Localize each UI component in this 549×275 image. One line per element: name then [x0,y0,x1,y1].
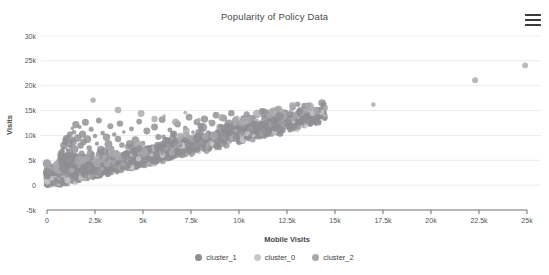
x-tick-label: 2.5k [88,217,102,224]
data-point [371,102,376,107]
data-point [218,114,225,121]
data-point [164,137,169,142]
data-point [83,135,91,143]
data-point [137,145,143,151]
data-point [93,134,97,138]
data-point [218,143,221,146]
data-point [270,127,274,131]
x-tick-label: 12.5k [278,217,296,224]
data-point [155,134,161,140]
data-point [87,150,94,157]
data-point [201,115,208,122]
data-point [318,99,326,107]
legend-item-label: cluster_0 [265,253,295,262]
data-point [196,118,200,122]
legend-marker-icon [254,254,261,261]
data-point [322,116,327,121]
data-point [292,120,296,124]
data-point [126,140,133,147]
y-tick-label: 30k [25,33,37,40]
data-point [138,110,145,117]
data-point [135,162,141,168]
legend-item-cluster_2[interactable]: cluster_2 [312,253,353,262]
data-point [295,125,299,129]
data-point [301,122,304,125]
data-point [248,135,252,139]
data-point [186,114,193,121]
data-point [314,118,320,124]
data-point [90,97,95,102]
x-tick-label: 22.5k [470,217,488,224]
data-point [107,123,113,129]
y-tick-label: 0 [32,182,36,189]
y-tick-label: 25k [25,57,37,64]
data-point [182,137,188,143]
y-tick-label: 10k [25,132,37,139]
data-point [173,139,179,145]
data-point [108,169,114,175]
data-point [80,164,86,170]
data-point [121,151,130,160]
data-point [57,177,60,180]
data-point [78,125,82,129]
data-point [136,156,142,162]
data-point [159,157,166,164]
y-axis-title: Visits [5,115,14,135]
data-point [57,174,61,178]
data-point [253,110,261,118]
data-point [131,156,136,161]
data-point [99,167,104,172]
data-point [208,120,212,124]
data-point [98,149,104,155]
data-point [72,130,77,135]
data-point [280,127,286,133]
data-point [228,110,234,116]
legend-item-label: cluster_2 [323,253,353,262]
data-point [54,161,59,166]
data-point [202,133,209,140]
data-point [159,151,162,154]
data-point [183,111,187,115]
data-point [191,130,195,134]
data-point [129,127,134,132]
data-point [296,108,303,115]
x-tick-label: 25k [521,217,533,224]
data-point [223,141,226,144]
data-point [64,183,68,187]
x-tick-label: 20k [425,217,437,224]
data-point [234,133,238,137]
data-point [71,146,78,153]
y-tick-label: -5k [26,207,36,214]
data-point [214,146,218,150]
data-point [199,123,208,132]
legend-item-label: cluster_1 [206,253,236,262]
data-point [292,128,296,132]
x-tick-label: 7.5k [184,217,198,224]
data-point [311,116,314,119]
legend-marker-icon [195,254,202,261]
data-point [75,156,84,165]
legend-item-cluster_1[interactable]: cluster_1 [195,253,236,262]
plot-area: 02.5k5k7.5k10k12.5k15k17.5k20k22.5k25k-5… [0,0,549,250]
data-point [63,165,69,171]
data-point [260,129,266,135]
data-point [148,157,152,161]
data-point [102,154,108,160]
data-point [117,120,123,126]
data-point [276,106,282,112]
data-point [313,107,319,113]
x-tick-label: 17.5k [374,217,392,224]
y-tick-label: 15k [25,107,37,114]
data-point [168,155,173,160]
data-point [127,164,131,168]
scatter-chart: Popularity of Policy Data 02.5k5k7.5k10k… [0,0,549,275]
data-point [107,148,115,156]
x-axis-title: Mobile Visits [264,235,310,244]
data-points [43,62,528,188]
data-point [169,150,175,156]
data-point [122,130,126,134]
data-point [154,142,162,150]
legend-item-cluster_0[interactable]: cluster_0 [254,253,295,262]
legend-marker-icon [312,254,319,261]
data-point [228,139,232,143]
